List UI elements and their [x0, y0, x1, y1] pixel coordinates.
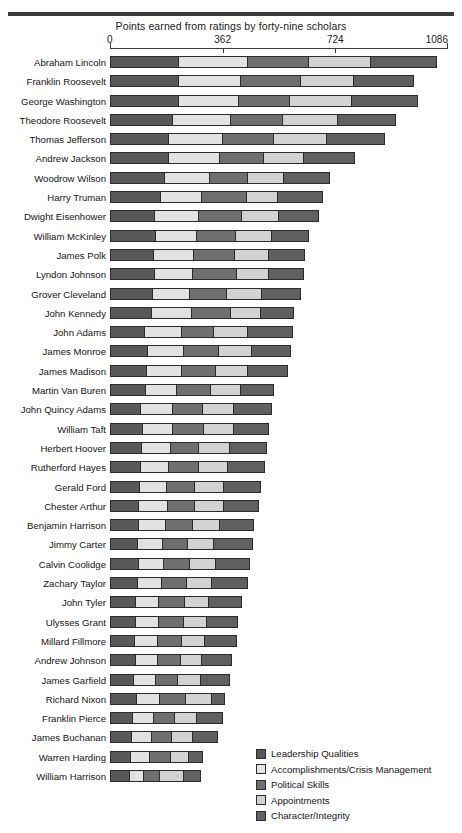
stacked-bar — [110, 654, 231, 666]
bar-segment-s1 — [135, 616, 159, 628]
chart-row: George Washington — [0, 95, 462, 114]
stacked-bar — [110, 693, 224, 705]
bar-segment-s2 — [230, 114, 283, 126]
row-label-president: Millard Fillmore — [0, 636, 106, 648]
stacked-bar — [110, 345, 290, 357]
chart-row: Richard Nixon — [0, 693, 462, 712]
stacked-bar — [110, 558, 249, 570]
bar-segment-s0 — [110, 461, 141, 473]
bar-segment-s4 — [277, 191, 323, 203]
stacked-bar — [110, 616, 237, 628]
bar-segment-s1 — [146, 365, 182, 377]
bar-segment-s0 — [110, 307, 152, 319]
chart-row: Herbert Hoover — [0, 442, 462, 461]
bar-segment-s1 — [139, 481, 167, 493]
bar-segment-s0 — [110, 770, 130, 782]
bar-segment-s3 — [174, 712, 196, 724]
bar-segment-s3 — [235, 230, 272, 242]
bar-segment-s4 — [213, 538, 253, 550]
bar-segment-s1 — [134, 635, 157, 647]
bar-segment-s1 — [152, 288, 190, 300]
stacked-bar — [110, 519, 253, 531]
bar-segment-s4 — [247, 326, 293, 338]
bar-segment-s0 — [110, 210, 155, 222]
bar-segment-s3 — [185, 693, 212, 705]
bar-segment-s2 — [162, 538, 188, 550]
x-axis-tick-labels: 03627241086 — [110, 34, 448, 46]
row-label-president: Ulysses Grant — [0, 617, 106, 629]
bar-segment-s1 — [141, 442, 171, 454]
bar-segment-s3 — [226, 288, 262, 300]
bar-segment-s2 — [151, 731, 172, 743]
bar-segment-s0 — [110, 654, 136, 666]
bar-segment-s2 — [201, 191, 247, 203]
stacked-bar — [110, 635, 236, 647]
bar-segment-s2 — [238, 95, 290, 107]
bar-segment-s1 — [145, 384, 177, 396]
bar-segment-s3 — [234, 249, 269, 261]
bar-segment-s1 — [153, 249, 194, 261]
row-label-president: Andrew Johnson — [0, 655, 106, 667]
row-label-president: John Tyler — [0, 597, 106, 609]
bar-segment-s3 — [236, 268, 269, 280]
legend-swatch-icon — [256, 811, 266, 821]
bar-segment-s0 — [110, 538, 138, 550]
row-label-president: George Washington — [0, 96, 106, 108]
bar-segment-s4 — [283, 172, 330, 184]
row-label-president: Abraham Lincoln — [0, 57, 106, 69]
bar-segment-s2 — [161, 577, 187, 589]
bar-segment-s3 — [159, 770, 183, 782]
bar-segment-s3 — [263, 152, 304, 164]
bar-segment-s1 — [178, 56, 248, 68]
stacked-bar — [110, 172, 329, 184]
bar-segment-s2 — [183, 345, 219, 357]
chart-row: William Taft — [0, 423, 462, 442]
bar-segment-s1 — [155, 230, 197, 242]
stacked-bar — [110, 133, 384, 145]
stacked-bar — [110, 384, 273, 396]
stacked-bar — [110, 731, 217, 743]
bar-segment-s1 — [140, 461, 169, 473]
row-label-president: Rutherford Hayes — [0, 462, 106, 474]
stacked-bar — [110, 674, 229, 686]
bar-segment-s3 — [184, 596, 209, 608]
bar-segment-s0 — [110, 75, 179, 87]
x-axis-tick-label: 1086 — [426, 34, 448, 45]
bar-segment-s1 — [131, 731, 152, 743]
stacked-bar — [110, 365, 287, 377]
x-axis-tick — [110, 43, 111, 49]
bar-segment-s4 — [215, 558, 250, 570]
bar-rows: Abraham LincolnFranklin RooseveltGeorge … — [0, 56, 462, 789]
chart-row: Woodrow Wilson — [0, 172, 462, 191]
bar-segment-s4 — [211, 693, 225, 705]
bar-segment-s1 — [154, 210, 199, 222]
stacked-bar — [110, 56, 436, 68]
chart-row: Grover Cleveland — [0, 288, 462, 307]
chart-row: William McKinley — [0, 230, 462, 249]
stacked-bar — [110, 307, 293, 319]
bar-segment-s2 — [219, 152, 264, 164]
bar-segment-s0 — [110, 751, 131, 763]
bar-segment-s0 — [110, 95, 179, 107]
bar-segment-s4 — [192, 731, 218, 743]
bar-segment-s1 — [137, 538, 163, 550]
chart-row: James Garfield — [0, 674, 462, 693]
row-label-president: John Adams — [0, 327, 106, 339]
chart-row: John Tyler — [0, 596, 462, 615]
stacked-bar — [110, 152, 354, 164]
chart-row: John Quincy Adams — [0, 403, 462, 422]
bar-segment-s0 — [110, 114, 173, 126]
bar-segment-s3 — [170, 751, 190, 763]
bar-segment-s3 — [203, 423, 234, 435]
chart-legend: Leadership QualitiesAccomplishments/Cris… — [256, 746, 456, 824]
bar-segment-s2 — [240, 75, 301, 87]
stacked-bar — [110, 770, 200, 782]
bar-segment-s3 — [192, 519, 220, 531]
bar-segment-s2 — [163, 558, 190, 570]
bar-segment-s0 — [110, 616, 136, 628]
bar-segment-s4 — [223, 500, 259, 512]
bar-segment-s1 — [138, 558, 164, 570]
bar-segment-s1 — [168, 133, 223, 145]
x-axis-tick — [447, 43, 448, 49]
bar-segment-s1 — [138, 519, 166, 531]
